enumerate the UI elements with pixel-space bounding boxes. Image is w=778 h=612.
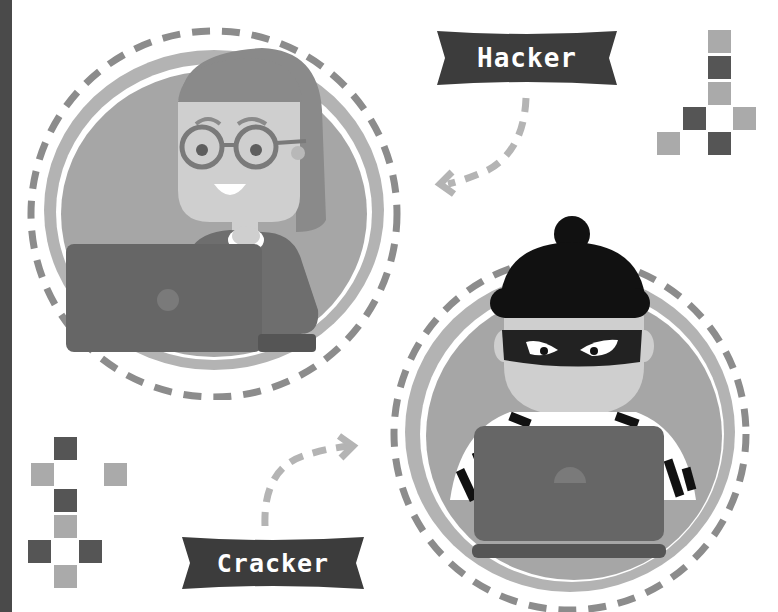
decor-square [79, 540, 102, 563]
hacker-banner: Hacker [437, 31, 617, 85]
decor-square [54, 437, 77, 460]
cracker-banner: Cracker [182, 537, 364, 589]
decor-square [733, 107, 756, 130]
decor-square [104, 463, 127, 486]
decor-square [31, 463, 54, 486]
decor-square [708, 82, 731, 105]
decor-square [708, 30, 731, 53]
cracker-label: Cracker [182, 537, 364, 589]
decor-square [708, 56, 731, 79]
cracker-laptop-icon [474, 426, 664, 541]
hacker-arrow-icon [430, 90, 540, 200]
decor-square [657, 132, 680, 155]
hacker-illustration [0, 0, 420, 400]
hacker-label: Hacker [437, 31, 617, 85]
decor-square [28, 540, 51, 563]
decor-square [683, 107, 706, 130]
cracker-arrow-icon [255, 430, 365, 530]
decor-square [708, 132, 731, 155]
cracker-illustration [380, 200, 778, 612]
decor-square [54, 489, 77, 512]
decor-square [54, 565, 77, 588]
mask-icon [502, 330, 642, 367]
decor-square [54, 515, 77, 538]
